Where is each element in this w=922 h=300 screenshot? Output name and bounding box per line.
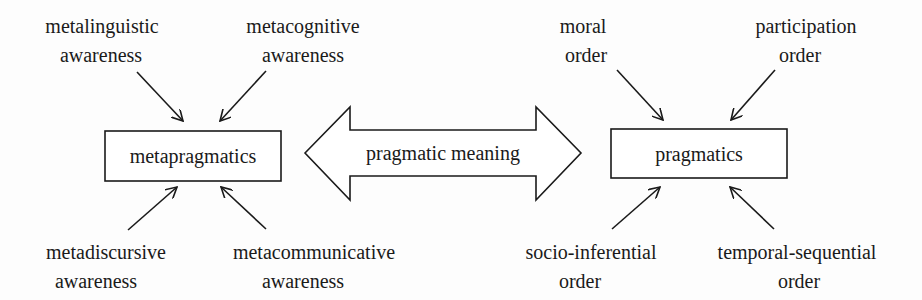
pragmatics-node: pragmatics xyxy=(611,129,787,178)
pragmatic-meaning-label: pragmatic meaning xyxy=(366,142,520,165)
input-label-line2: awareness xyxy=(55,270,137,292)
arrow-icon xyxy=(617,70,663,120)
arrow-icon xyxy=(221,187,266,229)
input-label-line2: order xyxy=(779,44,822,66)
arrow-icon xyxy=(220,71,266,121)
input-label-line2: order xyxy=(778,270,821,292)
input-label-line1: metadiscursive xyxy=(46,241,166,263)
input-label-line1: participation xyxy=(755,15,856,38)
pragmatic-meaning-connector: pragmatic meaning xyxy=(305,107,581,200)
arrow-icon xyxy=(612,187,660,229)
input-label-line2: awareness xyxy=(262,270,344,292)
input-label-line1: metacognitive xyxy=(246,15,359,38)
input-label-line2: order xyxy=(559,270,602,292)
input-metalinguistic-awareness: metalinguistic awareness xyxy=(45,15,183,121)
input-metacognitive-awareness: metacognitive awareness xyxy=(220,15,360,121)
arrow-icon xyxy=(730,187,774,229)
input-label-line1: socio-inferential xyxy=(525,241,656,263)
input-metacommunicative-awareness: metacommunicative awareness xyxy=(221,187,395,292)
input-socio-inferential-order: socio-inferential order xyxy=(525,187,660,292)
metapragmatics-node: metapragmatics xyxy=(105,131,281,181)
input-label-line2: awareness xyxy=(60,44,142,66)
input-label-line2: awareness xyxy=(262,44,344,66)
input-label-line1: metalinguistic xyxy=(45,15,158,38)
input-label-line2: order xyxy=(565,44,608,66)
diagram-canvas: metapragmatics metalinguistic awareness … xyxy=(0,0,922,300)
arrow-icon xyxy=(128,187,177,230)
arrow-icon xyxy=(731,70,775,120)
input-temporal-sequential-order: temporal-sequential order xyxy=(718,187,877,292)
pragmatics-label: pragmatics xyxy=(655,143,743,166)
input-metadiscursive-awareness: metadiscursive awareness xyxy=(46,187,177,292)
arrow-icon xyxy=(137,72,183,121)
input-label-line1: temporal-sequential xyxy=(718,241,877,264)
input-participation-order: participation order xyxy=(731,15,857,120)
input-label-line1: moral xyxy=(560,15,607,37)
input-label-line1: metacommunicative xyxy=(233,241,395,263)
input-moral-order: moral order xyxy=(560,15,663,120)
metapragmatics-label: metapragmatics xyxy=(130,145,257,168)
